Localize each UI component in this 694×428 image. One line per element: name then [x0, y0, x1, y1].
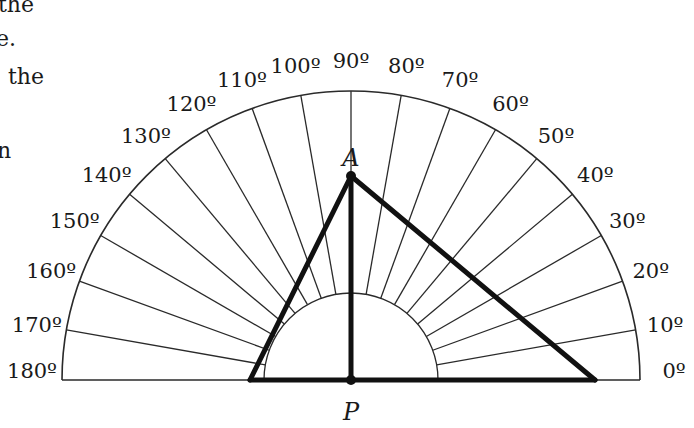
degree-label-130: 130º [121, 124, 171, 148]
degree-label-170: 170º [12, 313, 62, 337]
degree-label-50: 50º [538, 124, 575, 148]
label-A: A [340, 144, 359, 172]
ray-170-deg [66, 330, 265, 365]
ray-10-deg [437, 330, 636, 365]
degree-label-180: 180º [7, 359, 57, 383]
ray-40-deg [418, 194, 573, 324]
degree-label-60: 60º [492, 92, 529, 116]
degree-label-110: 110º [217, 68, 267, 92]
degree-label-80: 80º [388, 54, 425, 78]
point-P [346, 375, 356, 385]
ray-140-deg [130, 194, 285, 324]
degree-label-120: 120º [167, 92, 217, 116]
ray-130-deg [165, 159, 295, 314]
degree-label-70: 70º [442, 68, 479, 92]
degree-label-20: 20º [632, 259, 669, 283]
degree-label-100: 100º [271, 54, 321, 78]
protractor-diagram: 0º10º20º30º40º50º60º70º80º90º100º110º120… [0, 0, 694, 428]
degree-label-40: 40º [577, 163, 614, 187]
degree-label-30: 30º [609, 209, 646, 233]
degree-label-160: 160º [26, 259, 76, 283]
degree-label-10: 10º [647, 313, 684, 337]
degree-label-140: 140º [82, 163, 132, 187]
degree-label-0: 0º [662, 359, 685, 383]
point-A [346, 171, 356, 181]
label-P: P [342, 398, 360, 426]
degree-label-150: 150º [50, 209, 100, 233]
degree-label-90: 90º [333, 49, 370, 73]
